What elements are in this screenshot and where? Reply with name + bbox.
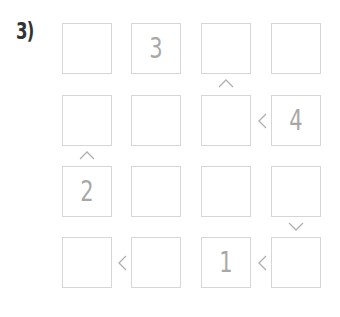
- cell-r1c3[interactable]: [201, 23, 251, 74]
- chevron-down-icon: [288, 222, 304, 232]
- cell-r2c2[interactable]: [131, 95, 181, 146]
- cell-r3c1[interactable]: 2: [62, 166, 112, 217]
- cell-r2c4[interactable]: 4: [271, 95, 321, 146]
- cell-value: 1: [219, 246, 232, 279]
- cell-r4c1[interactable]: [62, 237, 112, 288]
- chevron-left-icon: [117, 255, 127, 271]
- cell-r2c1[interactable]: [62, 95, 112, 146]
- cell-r2c3[interactable]: [201, 95, 251, 146]
- cell-value: 2: [80, 175, 93, 208]
- cell-value: 4: [289, 104, 302, 137]
- cell-r4c2[interactable]: [131, 237, 181, 288]
- cell-r1c4[interactable]: [271, 23, 321, 74]
- chevron-left-icon: [257, 255, 267, 271]
- cell-r3c4[interactable]: [271, 166, 321, 217]
- chevron-up-icon: [79, 150, 95, 160]
- cell-r1c1[interactable]: [62, 23, 112, 74]
- cell-r3c3[interactable]: [201, 166, 251, 217]
- chevron-up-icon: [218, 78, 234, 88]
- cell-r1c2[interactable]: 3: [131, 23, 181, 74]
- cell-r4c3[interactable]: 1: [201, 237, 251, 288]
- puzzle-number: 3): [16, 18, 33, 44]
- cell-r3c2[interactable]: [131, 166, 181, 217]
- cell-r4c4[interactable]: [271, 237, 321, 288]
- cell-value: 3: [149, 32, 162, 65]
- chevron-left-icon: [257, 113, 267, 129]
